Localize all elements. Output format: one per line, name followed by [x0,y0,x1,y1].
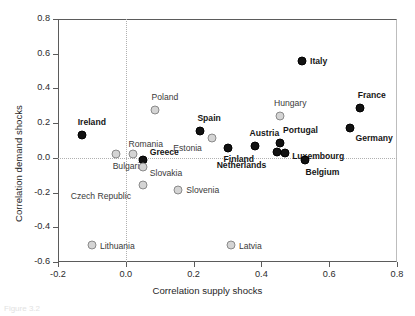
data-point-slovakia[interactable] [138,163,147,172]
data-point-slovenia[interactable] [174,185,183,194]
data-point-luxembourg[interactable] [281,148,290,157]
y-axis-title: Correlation demand shocks [13,105,24,222]
data-label-luxembourg: Luxembourg [292,151,344,161]
data-point-italy[interactable] [298,56,307,65]
data-label-czech-republic: Czech Republic [71,191,131,201]
data-point-romania[interactable] [128,149,137,158]
plot-frame [58,19,397,262]
x-tick-mark [58,262,59,267]
data-point-austria[interactable] [250,141,259,150]
data-point-poland[interactable] [150,106,159,115]
y-tick-label: -0.6 [0,256,50,266]
x-tick-label: 0.4 [255,269,268,279]
data-point-spain[interactable] [196,126,205,135]
x-tick-label: 0.0 [119,269,132,279]
data-label-netherlands: Netherlands [217,160,267,170]
x-tick-label: -0.2 [50,269,66,279]
data-point-germany[interactable] [345,124,354,133]
x-tick-mark [194,262,195,267]
data-label-belgium: Belgium [305,167,339,177]
y-tick-mark [53,54,58,55]
y-tick-label: -0.4 [0,221,50,231]
data-point-estonia[interactable] [208,133,217,142]
data-point-hungary[interactable] [276,112,285,121]
y-tick-label: -0.2 [0,187,50,197]
data-point-latvia[interactable] [226,240,235,249]
data-label-estonia: Estonia [173,143,202,153]
y-tick-mark [53,19,58,20]
data-label-lithuania: Lithuania [100,241,135,251]
y-tick-mark [53,88,58,89]
x-tick-label: 0.2 [187,269,200,279]
data-label-spain: Spain [197,113,220,123]
figure-caption: Figure 3.2 [4,304,40,313]
x-tick-mark [126,262,127,267]
scatter-plot-figure: 0.80.60.40.20.0-0.2-0.4-0.6 -0.20.00.20.… [0,0,415,316]
data-label-slovenia: Slovenia [186,185,219,195]
data-label-italy: Italy [310,56,327,66]
data-point-lithuania[interactable] [87,240,96,249]
data-label-germany: Germany [356,133,393,143]
data-point-france[interactable] [355,103,364,112]
y-tick-mark [53,123,58,124]
data-label-slovakia: Slovakia [150,168,182,178]
data-point-ireland[interactable] [77,131,86,140]
data-label-france: France [358,90,386,100]
data-label-portugal: Portugal [283,125,318,135]
y-tick-mark [53,227,58,228]
x-tick-mark [329,262,330,267]
y-tick-label: 0.8 [0,13,50,23]
zero-vertical-gridline [126,19,127,262]
y-tick-mark [53,193,58,194]
data-label-latvia: Latvia [239,241,262,251]
data-point-finland[interactable] [223,144,232,153]
y-tick-label: 0.2 [0,117,50,127]
x-axis-title: Correlation supply shocks [0,285,415,296]
data-label-austria: Austria [250,128,280,138]
data-label-ireland: Ireland [78,117,106,127]
x-tick-label: 0.6 [323,269,336,279]
data-point-belgium[interactable] [301,155,310,164]
data-point-czech-republic[interactable] [138,180,147,189]
data-label-poland: Poland [152,92,179,102]
data-label-romania: Romania [129,139,163,149]
y-tick-label: 0.4 [0,82,50,92]
y-tick-mark [53,158,58,159]
data-label-hungary: Hungary [274,98,306,108]
y-tick-label: 0.6 [0,48,50,58]
x-tick-mark [397,262,398,267]
data-point-bulgaria[interactable] [111,149,120,158]
x-tick-mark [261,262,262,267]
x-tick-label: 0.8 [391,269,404,279]
data-point-portugal[interactable] [276,139,285,148]
y-tick-label: 0.0 [0,152,50,162]
